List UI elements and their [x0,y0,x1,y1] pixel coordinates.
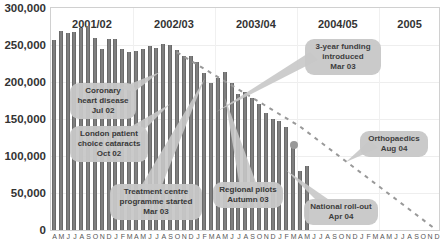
y-tick-label: 250,000 [4,39,46,51]
callout-treatment-centre: Treatment centre programme started Mar 0… [110,184,202,220]
bar [277,121,281,230]
callout-line: Autumn 03 [217,195,279,205]
callout-line: Regional pilots [217,185,279,195]
bar [59,31,63,230]
y-tick-label: 150,000 [4,113,46,125]
bar [202,73,206,230]
callout-line: London patient [74,129,144,139]
bar [298,171,302,230]
callout-line: 3-year funding [309,42,377,52]
bar [257,104,261,230]
callout-line: choice cataracts [74,139,144,149]
period-label: 2003/04 [226,18,286,30]
period-divider [379,8,380,230]
bar [291,144,295,230]
y-tick-label: 100,000 [4,150,46,162]
bar [284,127,288,230]
y-tick-label: 200,000 [4,76,46,88]
callout-line: Orthopaedics [364,134,424,144]
period-label: 2001/02 [62,18,122,30]
callout-line: Coronary [74,86,132,96]
callout-line: introduced [309,52,377,62]
callout-line: Mar 03 [114,207,198,217]
callout-line: Jul 02 [74,106,132,116]
callout-line: Aug 04 [364,144,424,154]
bar [236,94,240,230]
bar [230,83,234,230]
callout-line: Apr 04 [308,212,374,222]
callout-line: National roll-out [308,202,374,212]
bar [209,83,213,230]
callout-3-year-funding: 3-year funding introduced Mar 03 [305,39,381,75]
bar [52,40,56,230]
y-tick-label: 0 [40,224,46,236]
callout-line: heart disease [74,96,132,106]
bar [66,33,70,230]
bar [250,98,254,230]
callout-line: programme started [114,197,198,207]
callout-regional-pilots: Regional pilots Autumn 03 [213,182,283,208]
callout-coronary-heart-disease: Coronary heart disease Jul 02 [70,83,136,119]
callout-line: Mar 03 [309,62,377,72]
y-tick-label: 50,000 [11,187,46,199]
period-label: 2005 [380,18,440,30]
callout-line: Treatment centre [114,187,198,197]
bar [271,119,275,230]
callout-line: Oct 02 [74,149,144,159]
period-label: 2002/03 [144,18,204,30]
y-tick-label: 300,000 [4,2,46,14]
period-label: 2004/05 [308,18,368,30]
bar [243,92,247,230]
callout-london-patient-choice: London patient choice cataracts Oct 02 [70,126,148,162]
x-tick-label: D [433,233,440,240]
callout-national-roll-out: National roll-out Apr 04 [304,199,378,225]
callout-orthopaedics: Orthopaedics Aug 04 [360,131,428,157]
bar [264,113,268,230]
